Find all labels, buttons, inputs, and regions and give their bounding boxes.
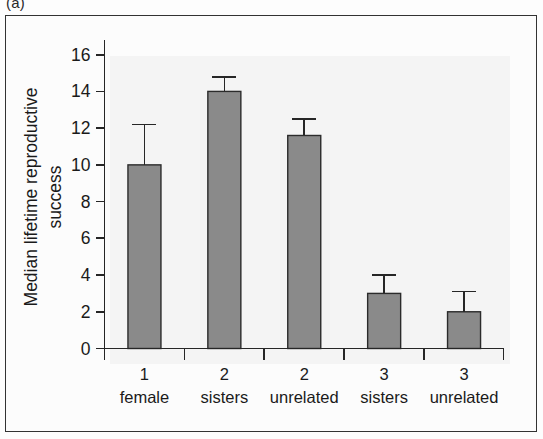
x-category-label-line1: 1 [140, 365, 149, 383]
bar [368, 293, 401, 348]
bar [208, 91, 241, 348]
x-category-label-line2: unrelated [270, 388, 339, 406]
y-axis-ticks: 0246810121416 [71, 45, 104, 359]
y-tick-label: 0 [81, 339, 91, 359]
y-tick-label: 8 [81, 192, 91, 212]
y-tick-label: 6 [81, 228, 91, 248]
x-axis-labels: 1female2sisters2unrelated3sisters3unrela… [120, 365, 499, 406]
bar [288, 135, 321, 348]
x-category-label-line1: 3 [380, 365, 389, 383]
y-tick-label: 14 [71, 81, 91, 101]
x-category-label-line1: 2 [220, 365, 229, 383]
x-category-label-line2: unrelated [430, 388, 499, 406]
y-tick-label: 12 [71, 118, 90, 138]
x-category-label-line1: 3 [459, 365, 468, 383]
x-axis-ticks [105, 349, 425, 360]
figure-panel: (a) Median lifetime reproductive success… [0, 0, 543, 439]
x-category-label-line2: female [120, 388, 170, 406]
bar [448, 312, 481, 349]
bar [128, 165, 161, 349]
y-tick-label: 4 [81, 265, 91, 285]
y-tick-label: 16 [71, 45, 90, 65]
y-tick-label: 10 [71, 155, 91, 175]
x-category-label-line2: sisters [201, 388, 249, 406]
x-category-label-line2: sisters [360, 388, 408, 406]
bar-chart: 0246810121416 1female2sisters2unrelated3… [0, 0, 543, 439]
y-tick-label: 2 [81, 302, 91, 322]
x-category-label-line1: 2 [300, 365, 309, 383]
